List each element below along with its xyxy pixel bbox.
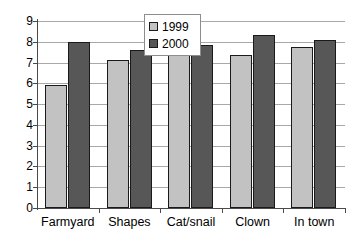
bar-2000 (68, 42, 90, 208)
bar-1999 (230, 55, 252, 208)
y-axis-tick-label: 3 (3, 140, 33, 152)
legend-item-2000: 2000 (149, 35, 200, 52)
x-axis-tick-mark (345, 208, 346, 213)
x-axis-label-in-town: In town (283, 215, 345, 230)
x-axis-line (37, 208, 346, 209)
y-axis-tick-label: 2 (3, 160, 33, 172)
y-axis-line (37, 19, 38, 210)
y-axis-tick-label: 0 (3, 202, 33, 214)
x-axis-tick-mark (160, 208, 161, 213)
legend-item-1999: 1999 (149, 18, 200, 35)
x-axis-tick-mark (283, 208, 284, 213)
y-axis-tick-label: 8 (3, 36, 33, 48)
y-axis-tick-label: 9 (3, 15, 33, 27)
bar-2000 (130, 50, 152, 208)
y-axis-tick-label: 1 (3, 181, 33, 193)
bar-group (37, 21, 99, 208)
bar-group (222, 21, 284, 208)
bar-1999 (168, 55, 190, 208)
y-axis-tick-label: 7 (3, 57, 33, 69)
y-axis-tick-label: 4 (3, 119, 33, 131)
x-axis-label-shapes: Shapes (99, 215, 161, 230)
x-axis-label-farmyard: Farmyard (37, 215, 99, 230)
legend-swatch-1999-icon (149, 22, 158, 31)
bar-2000 (191, 45, 213, 208)
bar-2000 (253, 35, 275, 208)
x-axis-tick-mark (99, 208, 100, 213)
y-axis-tick-label: 5 (3, 98, 33, 110)
legend-label-2000: 2000 (162, 38, 189, 50)
bar-chart: 0123456789 FarmyardShapesCat/snailClownI… (0, 0, 357, 248)
bar-2000 (314, 40, 336, 208)
legend-swatch-2000-icon (149, 39, 158, 48)
bar-1999 (107, 60, 129, 208)
y-axis-tick-label: 6 (3, 77, 33, 89)
x-axis-tick-mark (222, 208, 223, 213)
legend-label-1999: 1999 (162, 21, 189, 33)
x-axis-label-clown: Clown (222, 215, 284, 230)
bar-group (283, 21, 345, 208)
bar-1999 (45, 85, 67, 208)
y-axis-labels: 0123456789 (0, 0, 33, 248)
chart-legend: 1999 2000 (144, 14, 201, 56)
bar-1999 (291, 47, 313, 208)
x-axis-label-cat-snail: Cat/snail (160, 215, 222, 230)
